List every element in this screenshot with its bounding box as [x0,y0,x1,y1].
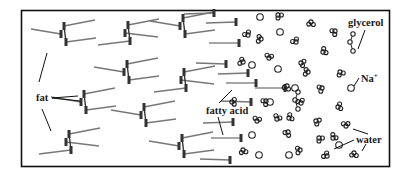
fat-leader [52,96,78,98]
fat-molecule [51,88,116,114]
fatty-acid-leader [218,117,223,135]
fatty-tail [98,41,130,45]
saponification-diagram: fat fatty acid glycerol Na+ water [0,0,409,179]
water-molecule [317,85,324,93]
water-molecule [314,118,321,126]
backbone [127,64,129,80]
sodium-ions-group [249,14,355,159]
water-molecule [321,47,328,55]
fatty-tail [39,150,71,154]
glycerol-atom [351,49,355,53]
carboxyl-head [247,69,250,77]
fatty-tail [64,20,95,26]
carboxyl-head [250,98,253,106]
fat-molecule [149,132,214,158]
fatty-acid [218,69,250,77]
fatty-tail [154,88,186,92]
backbone [69,134,71,150]
water-molecule [337,70,345,77]
fat-molecule [111,101,176,127]
carboxyl-head [213,9,216,17]
fatty-tail [129,76,159,80]
water-molecule [287,113,294,121]
fatty-acid [255,84,287,92]
label-water: water [356,134,382,145]
backbone [84,94,86,110]
water-molecule [256,35,263,44]
fatty-tail [150,21,180,26]
sodium-ion [292,85,299,92]
glycerol-head [180,76,183,84]
fat-leader [42,109,51,131]
fatty-tail [66,38,96,42]
backbone [184,72,186,88]
label-glycerol: glycerol [348,17,383,28]
fatty-tail [127,58,158,64]
fatty-acid [209,39,241,47]
label-sodium-ion: Na+ [361,72,378,84]
fatty-tail [111,110,141,115]
fatty-tail [184,150,214,154]
water-molecule [303,68,310,77]
water-molecule [276,13,284,20]
carboxyl-head [240,134,243,142]
fatty-acid-tail [196,63,226,64]
fatty-tail [146,119,176,123]
glycerol-head [65,138,68,146]
fatty-tail [84,88,115,94]
backbone [182,138,184,154]
glycerol-atom [296,107,300,111]
sodium-ion [257,14,264,21]
sodium-charge: + [374,72,378,80]
water-molecule [322,151,329,158]
carboxyl-head [232,118,235,126]
water-molecule [291,37,299,44]
water-leader [362,144,366,151]
water-molecule [350,151,359,158]
water-molecule [239,148,248,155]
fat-molecule [31,20,96,46]
carboxyl-head [238,39,241,47]
water-molecule [341,122,350,128]
carboxyl-head [229,156,232,164]
fatty-tail [31,29,61,34]
carboxyl-head [225,60,228,68]
carboxyl-head [235,18,238,26]
fatty-tail [69,128,100,134]
sodium-ion [275,66,282,73]
fatty-acid-tail [218,73,248,74]
glycerol-atom [351,32,355,36]
water-molecule [330,29,337,37]
water-molecule [336,102,343,110]
backbone [64,26,66,42]
glycerol-molecule [348,32,355,53]
fat-leader [39,53,47,82]
fatty-acid [211,134,243,142]
fat-molecule [150,12,215,38]
fatty-tail [185,30,215,34]
backbone [144,107,146,123]
sodium-leader [354,78,359,86]
fatty-acid-tail [203,122,233,123]
sodium-ion [249,62,256,69]
fatty-acid [206,18,238,26]
water-molecule [274,114,282,121]
fat-molecules-group [31,12,215,158]
glycerol-head [124,29,127,37]
water-molecule [296,146,303,155]
fat-molecule [98,19,159,45]
fat-molecule [94,58,159,84]
sodium-ion [286,152,293,159]
water-molecule [307,20,316,27]
fatty-acid-tail [206,22,236,23]
label-fatty-acid: fatty acid [206,105,248,116]
glycerol-group [293,32,355,111]
fatty-acid-tail [200,159,230,160]
glycerol-head [80,98,83,106]
fat-leader [52,98,80,101]
water-molecule [299,59,306,67]
fat-molecule [39,128,100,154]
water-molecule [253,116,261,123]
water-molecule [317,136,324,143]
glycerol-head [123,68,126,76]
